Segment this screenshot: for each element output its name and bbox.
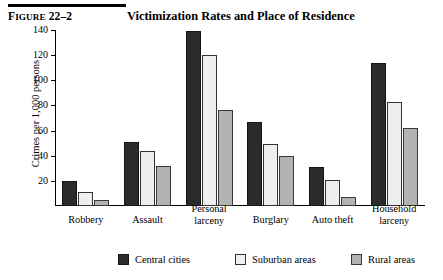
legend-label: Central cities [135,254,190,265]
figure-number-smallcaps: IGURE [15,12,46,22]
header-rule [8,4,126,7]
bar-group [371,30,418,206]
figure-number-value: 22–2 [46,10,72,22]
bar [94,200,109,206]
x-axis-label-line: Auto theft [312,214,354,225]
y-axis-tick-label: 100 [33,74,48,85]
y-axis-tick-label: 120 [33,49,48,60]
bar-group [62,30,109,206]
bar [403,128,418,206]
legend-swatch [118,254,129,265]
bar [202,55,217,206]
x-axis-labels: RobberyAssaultPersonallarcenyBurglaryAut… [55,214,425,248]
figure-title: Victimization Rates and Place of Residen… [127,9,355,24]
bars-layer [55,30,425,206]
bar [78,192,93,206]
bar [279,156,294,206]
y-axis-tick-label: 140 [33,24,48,35]
bar-group [186,30,233,206]
x-axis-label-line: Burglary [253,214,289,225]
bar [247,122,262,206]
bar [387,102,402,206]
x-axis-label-line: Assault [132,214,163,225]
bar-group [124,30,171,206]
legend-label: Rural areas [368,254,415,265]
figure-header: FIGURE 22–2 Victimization Rates and Plac… [8,4,435,26]
legend-label: Suburban areas [252,254,316,265]
bar [263,144,278,206]
x-axis-label-line: larceny [355,215,433,227]
bar-chart: Crimes per 1,000 persons 204060801001201… [0,26,443,280]
legend-swatch [351,254,362,265]
bar-group [309,30,356,206]
bar [186,31,201,206]
legend-swatch [235,254,246,265]
bar [156,166,171,206]
bar [140,151,155,206]
x-axis-label-line: Robbery [68,214,103,225]
bar [62,181,77,206]
bar [124,142,139,206]
x-axis-label: Householdlarceny [355,203,433,226]
bar [309,167,324,206]
y-axis-tick-label: 60 [38,125,48,136]
bar [218,110,233,206]
bar [371,63,386,206]
legend-item[interactable]: Central cities [118,254,190,265]
chart-legend: Central citiesSuburban areasRural areas [55,254,425,276]
bar-group [247,30,294,206]
y-axis-tick-label: 20 [38,175,48,186]
x-axis-label-line: Personal [192,203,227,214]
legend-item[interactable]: Suburban areas [235,254,316,265]
figure-number: FIGURE 22–2 [8,10,72,22]
bar [325,180,340,206]
y-axis-tick-label: 80 [38,99,48,110]
bar [341,197,356,206]
y-axis-tick-label: 40 [38,150,48,161]
x-axis-label-line: Household [372,203,416,214]
legend-item[interactable]: Rural areas [351,254,415,265]
